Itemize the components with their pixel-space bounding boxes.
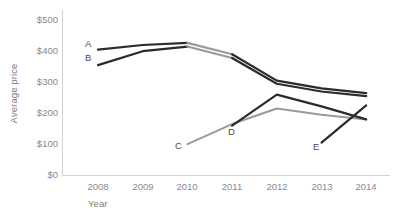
plot-area bbox=[0, 0, 396, 216]
series-label-E: E bbox=[313, 141, 319, 152]
series-label-D: D bbox=[228, 126, 235, 137]
series-label-A: A bbox=[85, 38, 91, 49]
series-label-C: C bbox=[175, 140, 182, 151]
series-label-B: B bbox=[85, 52, 91, 63]
line-chart: Average price Year $500 $400 $300 $200 $… bbox=[0, 0, 396, 216]
series-line-E bbox=[322, 105, 367, 142]
